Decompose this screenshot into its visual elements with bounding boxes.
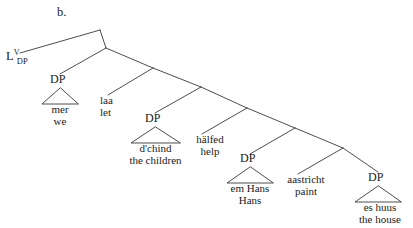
triangle-dp-eshuus bbox=[355, 186, 401, 202]
root-node-label: LVDP bbox=[6, 50, 28, 64]
terminal-laa-gloss: let bbox=[100, 107, 113, 119]
branch-node2-to-node3 bbox=[106, 48, 153, 68]
triangle-dp-mer bbox=[42, 88, 78, 104]
terminal-mer-gloss: we bbox=[42, 116, 78, 128]
node-label-dp-3: DP bbox=[240, 152, 256, 165]
branch-node7-to-dp4 bbox=[343, 148, 378, 172]
branch-node4-to-node5 bbox=[201, 87, 247, 108]
terminal-emhans: em Hans Hans bbox=[222, 183, 278, 207]
terminal-mer: mer we bbox=[42, 104, 78, 128]
node-label-dp-1: DP bbox=[50, 73, 66, 86]
branch-node6-to-dp3 bbox=[250, 128, 295, 154]
terminal-laa: laa let bbox=[100, 95, 113, 119]
terminal-emhans-gloss: Hans bbox=[222, 195, 278, 207]
branch-node3-to-node4 bbox=[153, 68, 201, 87]
terminal-halfed: hälfed help bbox=[189, 134, 231, 158]
branch-node7-to-aastricht bbox=[298, 148, 343, 174]
branch-node5-to-halfed bbox=[202, 108, 247, 134]
figure-canvas: b. LVDP DP DP DP DP mer we laa let d'chi… bbox=[0, 0, 413, 228]
branch-root-to-L bbox=[20, 30, 100, 53]
terminal-eshuus: es huus the house bbox=[350, 202, 410, 226]
branch-node2-to-dp1 bbox=[60, 48, 106, 74]
root-subscript: DP bbox=[17, 56, 28, 66]
triangle-dp-emhans bbox=[227, 167, 273, 183]
terminal-halfed-gloss: help bbox=[189, 146, 231, 158]
triangle-dp-dchind bbox=[131, 127, 180, 143]
node-label-dp-2: DP bbox=[145, 112, 161, 125]
branch-node5-to-node6 bbox=[247, 108, 295, 128]
terminal-eshuus-gloss: the house bbox=[350, 214, 410, 226]
example-label: b. bbox=[57, 6, 66, 20]
terminal-dchind: d'chind the children bbox=[111, 143, 200, 167]
branch-node3-to-laa bbox=[108, 68, 153, 95]
branch-node6-to-node7 bbox=[295, 128, 343, 148]
branch-root-to-node2 bbox=[100, 30, 106, 48]
branch-node4-to-dp2 bbox=[155, 87, 201, 113]
terminal-dchind-gloss: the children bbox=[111, 155, 200, 167]
node-label-dp-4: DP bbox=[368, 171, 384, 184]
terminal-aastricht-gloss: paint bbox=[280, 186, 332, 198]
terminal-aastricht: aastricht paint bbox=[280, 174, 332, 198]
root-base: L bbox=[6, 49, 14, 63]
